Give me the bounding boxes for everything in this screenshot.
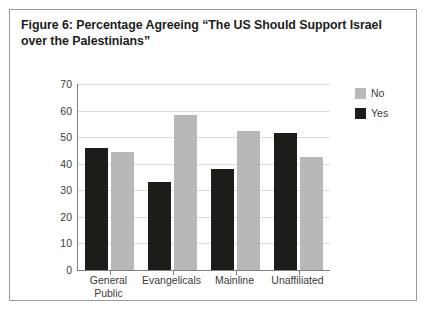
legend-swatch-icon (355, 108, 366, 119)
x-axis-label: Unaffiliated (266, 274, 329, 299)
bar-group (267, 84, 330, 270)
legend-item-no[interactable]: No (355, 88, 388, 99)
bar-yes[interactable] (211, 169, 234, 270)
source-note-cutoff (10, 310, 418, 320)
y-axis-tick-label: 10 (60, 238, 72, 249)
y-axis-tick-label: 0 (66, 265, 72, 276)
bar-group (141, 84, 204, 270)
x-axis-label: General Public (77, 274, 140, 299)
bar-groups (78, 84, 330, 270)
y-axis-tick-label: 60 (60, 105, 72, 116)
figure-caption: Figure 6: Percentage Agreeing “The US Sh… (21, 18, 401, 49)
y-axis-tick-label: 50 (60, 132, 72, 143)
bar-group (204, 84, 267, 270)
legend-label: No (371, 88, 384, 99)
legend-label: Yes (371, 108, 388, 119)
x-axis-labels: General PublicEvangelicalsMainlineUnaffi… (77, 274, 329, 299)
bar-yes[interactable] (148, 182, 171, 270)
bar-chart: 706050403020100 General PublicEvangelica… (10, 62, 416, 300)
bar-no[interactable] (237, 131, 260, 271)
bar-no[interactable] (300, 157, 323, 270)
bar-yes[interactable] (85, 148, 108, 270)
legend-swatch-icon (355, 88, 366, 99)
chart-legend: NoYes (355, 88, 388, 119)
y-axis-tick-label: 30 (60, 185, 72, 196)
x-axis-label: Evangelicals (140, 274, 203, 299)
bar-no[interactable] (111, 152, 134, 270)
bar-no[interactable] (174, 115, 197, 270)
figure-container: Figure 6: Percentage Agreeing “The US Sh… (9, 9, 417, 301)
y-axis-tick-label: 70 (60, 79, 72, 90)
y-axis-tick-label: 40 (60, 158, 72, 169)
bar-group (78, 84, 141, 270)
legend-item-yes[interactable]: Yes (355, 108, 388, 119)
plot-area: 706050403020100 (77, 84, 330, 271)
bar-yes[interactable] (274, 133, 297, 270)
x-axis-label: Mainline (203, 274, 266, 299)
y-axis-tick-label: 20 (60, 212, 72, 223)
